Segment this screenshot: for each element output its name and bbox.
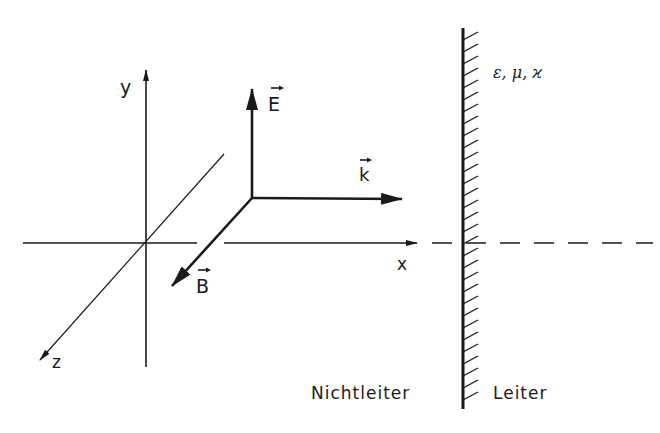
hatching-pattern bbox=[463, 32, 478, 400]
e-field-label: E bbox=[268, 86, 284, 116]
wave-vector-k bbox=[252, 198, 402, 199]
material-parameters-label: ε, μ, ϰ bbox=[493, 63, 543, 82]
b-field-vector bbox=[172, 198, 252, 286]
vector-arrow-head-icon bbox=[367, 158, 372, 163]
z-axis bbox=[40, 154, 224, 360]
non-conductor-label: Nichtleiter bbox=[311, 383, 410, 403]
em-wave-diagram: y x z E k B bbox=[0, 0, 660, 433]
b-field-label: B bbox=[196, 268, 211, 298]
svg-text:E: E bbox=[268, 93, 280, 115]
vector-arrow-head-icon bbox=[279, 86, 284, 91]
svg-text:k: k bbox=[359, 164, 370, 185]
conductor-boundary-wall bbox=[463, 28, 478, 409]
x-axis-label: x bbox=[397, 254, 407, 274]
conductor-label: Leiter bbox=[493, 383, 547, 403]
z-axis-label: z bbox=[52, 352, 61, 372]
wave-vector-label: k bbox=[359, 158, 372, 186]
vector-arrow-head-icon bbox=[206, 268, 211, 273]
y-axis-label: y bbox=[120, 76, 131, 98]
svg-text:B: B bbox=[196, 275, 209, 297]
